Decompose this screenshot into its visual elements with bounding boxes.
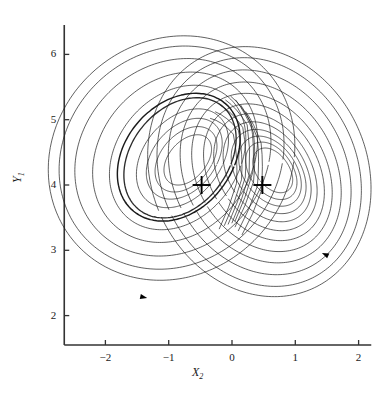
orbit-loop (155, 127, 217, 192)
x-tick-label-1: −1 (149, 352, 189, 363)
y-tick-label-4: 6 (28, 48, 56, 59)
x-tick-label-3: 1 (275, 352, 315, 363)
orbit-loop (168, 70, 351, 275)
x-axis-title-sub: 2 (199, 372, 203, 381)
y-tick-label-1: 3 (28, 244, 56, 255)
x-tick-label-4: 2 (339, 352, 379, 363)
y-tick-label-2: 4 (28, 179, 56, 190)
phase-portrait-figure: −2−101223456 Y1 X2 (0, 0, 388, 394)
trajectory-curve (48, 36, 371, 297)
fixed-point-right (253, 176, 271, 194)
x-axis-title: X2 (192, 366, 203, 381)
y-tick-label-0: 2 (28, 310, 56, 321)
direction-arrow-lower-left (140, 294, 148, 301)
attractor-plot (0, 0, 388, 394)
orbit-loop (48, 36, 295, 280)
y-axis-title-sub: 1 (17, 172, 26, 176)
x-tick-label-2: 0 (212, 352, 252, 363)
y-axis-title-base: Y (10, 176, 24, 183)
direction-arrow-right (321, 251, 330, 259)
y-axis-title: Y1 (11, 172, 26, 183)
orbit-loop (253, 148, 293, 193)
x-tick-label-0: −2 (85, 352, 125, 363)
y-tick-label-3: 5 (28, 114, 56, 125)
